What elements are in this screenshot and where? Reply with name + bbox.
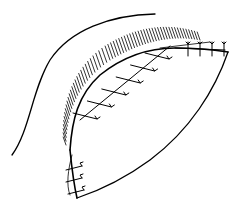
flap-lower-edge [77, 52, 228, 198]
sutures [66, 42, 226, 194]
hatched-band [63, 27, 200, 145]
illustration [0, 0, 237, 204]
